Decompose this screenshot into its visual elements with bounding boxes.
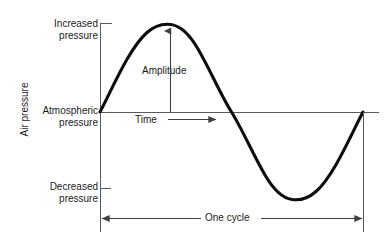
wave-plot (0, 0, 384, 244)
air-pressure-wave-figure: Air pressure Increased pressure Atmosphe… (0, 0, 384, 244)
